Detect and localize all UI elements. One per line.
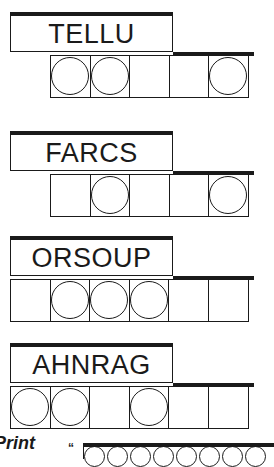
letter-box[interactable] [89, 386, 130, 429]
final-answer-cell[interactable] [222, 446, 243, 467]
final-answer-cell[interactable] [84, 446, 105, 467]
scrambled-word: AHNRAG [32, 350, 151, 379]
final-answer-boxes [83, 443, 274, 459]
letter-box[interactable] [168, 279, 209, 322]
final-answer-cell[interactable] [130, 446, 151, 467]
letter-box[interactable] [50, 174, 91, 217]
scrambled-word: FARCS [45, 138, 138, 167]
final-answer-cell[interactable] [107, 446, 128, 467]
letter-box[interactable] [129, 55, 170, 98]
letter-box-circled[interactable] [10, 386, 51, 429]
letter-box[interactable] [169, 55, 210, 98]
print-label: Print [0, 433, 35, 454]
answer-boxes [10, 386, 249, 429]
final-answer-cell[interactable] [153, 446, 174, 467]
answer-boxes [50, 55, 249, 98]
quote-mark: “ [68, 441, 74, 455]
letter-box[interactable] [10, 279, 51, 322]
letter-box-circled[interactable] [50, 386, 91, 429]
letter-box-circled[interactable] [50, 55, 91, 98]
scrambled-word: ORSOUP [31, 243, 151, 272]
letter-box[interactable] [208, 386, 249, 429]
final-answer-cell[interactable] [176, 446, 197, 467]
letter-box[interactable] [168, 386, 209, 429]
letter-box-circled[interactable] [89, 279, 130, 322]
answer-boxes [50, 174, 249, 217]
scrambled-word-box: AHNRAG [10, 343, 173, 383]
letter-box-circled[interactable] [90, 174, 131, 217]
letter-box-circled[interactable] [90, 55, 131, 98]
scrambled-word-box: FARCS [10, 131, 173, 171]
letter-box[interactable] [208, 279, 249, 322]
scrambled-word-box: ORSOUP [10, 236, 173, 276]
letter-box-circled[interactable] [50, 279, 91, 322]
letter-box[interactable] [169, 174, 210, 217]
final-answer-cell[interactable] [199, 446, 220, 467]
scrambled-word-box: TELLU [10, 12, 173, 52]
answer-boxes [10, 279, 249, 322]
scrambled-word: TELLU [48, 19, 135, 48]
letter-box[interactable] [129, 174, 170, 217]
letter-box-circled[interactable] [208, 174, 249, 217]
final-answer-cell[interactable] [245, 446, 266, 467]
letter-box-circled[interactable] [208, 55, 249, 98]
letter-box-circled[interactable] [129, 386, 170, 429]
letter-box-circled[interactable] [129, 279, 170, 322]
